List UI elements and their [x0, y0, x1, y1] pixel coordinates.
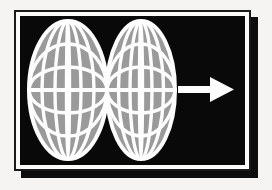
- arrow-shaft-and-head: [178, 77, 234, 102]
- page-root: [0, 0, 272, 190]
- propagation-arrow: [178, 77, 234, 102]
- figure-plate: [20, 16, 245, 165]
- figure-frame: [14, 10, 251, 171]
- radiation-pattern-diagram: [20, 16, 245, 165]
- figure-mat: [16, 12, 249, 169]
